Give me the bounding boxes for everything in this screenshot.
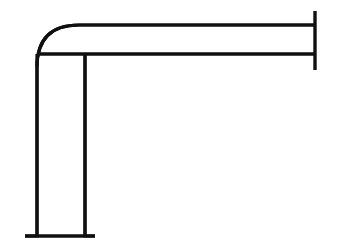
drawing-background: [0, 0, 343, 249]
bracket-drawing-svg: [0, 0, 343, 249]
technical-drawing-canvas: [0, 0, 343, 249]
